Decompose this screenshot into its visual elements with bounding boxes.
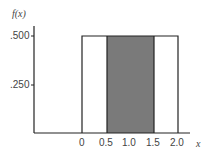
shaded-probability-region bbox=[107, 36, 154, 133]
x-tick-label-0: 0 bbox=[79, 138, 85, 148]
y-tick-label-500: .500 bbox=[10, 31, 29, 41]
y-axis-label: f(x) bbox=[12, 9, 26, 19]
y-tick-label-250: .250 bbox=[10, 80, 29, 90]
x-tick-label-1-5: 1.5 bbox=[146, 138, 160, 148]
x-tick-label-0-5: 0.5 bbox=[99, 138, 113, 148]
x-tick-label-1-0: 1.0 bbox=[122, 138, 136, 148]
chart-plot bbox=[0, 0, 205, 156]
x-tick-label-2-0: 2.0 bbox=[170, 138, 184, 148]
x-axis-label: x bbox=[196, 139, 200, 149]
